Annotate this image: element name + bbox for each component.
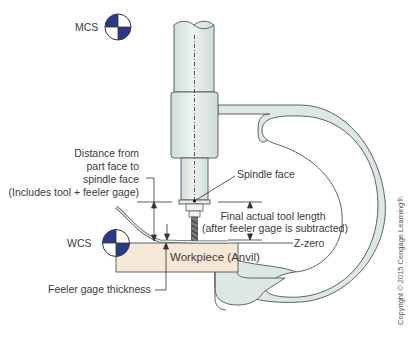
wcs-symbol-icon xyxy=(103,230,130,257)
final-tool-length-line2: (after feeler gage is subtracted) xyxy=(202,222,344,235)
distance-label-line2: part face to xyxy=(86,160,139,173)
distance-label-line1: Distance from xyxy=(74,147,139,160)
mcs-symbol-icon xyxy=(105,14,131,40)
c-frame xyxy=(215,105,385,310)
mcs-label: MCS xyxy=(75,21,98,34)
distance-label-line3: spindle face xyxy=(83,173,139,186)
workpiece-label: Workpiece (Anvil) xyxy=(170,251,260,264)
tool-length-diagram: MCS WCS Distance from part face to spind… xyxy=(0,0,416,337)
wcs-label: WCS xyxy=(67,237,92,250)
copyright-notice: Copyright © 2015 Cengage Learning®. xyxy=(396,195,405,325)
z-zero-label: Z-zero xyxy=(294,237,324,250)
spindle-face-label: Spindle face xyxy=(237,168,295,181)
feeler-gage-label: Feeler gage thickness xyxy=(48,283,151,296)
distance-label-line4: (Includes tool + feeler gage) xyxy=(9,186,139,199)
